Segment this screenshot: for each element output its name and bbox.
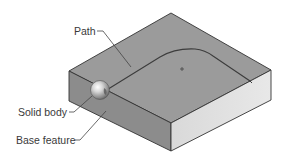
base-feature-label: Base feature [16, 134, 76, 146]
diagram-canvas: Path Solid body Base feature [0, 0, 287, 165]
solid-body-label: Solid body [18, 106, 67, 118]
path-label: Path [74, 25, 96, 37]
solid-body-sphere [91, 81, 110, 100]
